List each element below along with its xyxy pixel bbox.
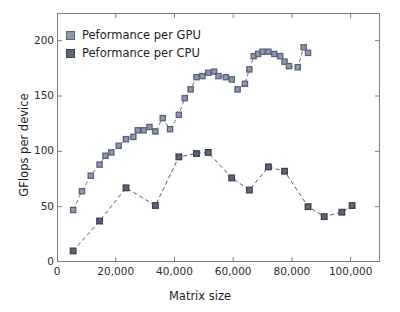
data-point [109,150,114,155]
data-point [167,127,172,132]
data-point [188,87,193,92]
data-point [305,50,310,55]
data-point [272,51,277,56]
data-point [321,214,327,220]
data-point [123,137,128,142]
legend-item-cpu: Peformance per CPU [66,48,201,60]
data-point [282,168,288,174]
data-point [247,187,253,193]
data-point [153,203,159,209]
data-point [160,116,165,121]
legend-marker-cpu-icon [66,49,75,58]
data-point [176,154,182,160]
x-tick-label: 20,000 [97,266,134,277]
data-point [305,204,311,210]
data-point [286,64,291,69]
data-point [135,128,140,133]
data-point [176,112,181,117]
data-point [266,49,271,54]
y-axis-title: GFlops per device [17,75,31,215]
data-point [70,248,76,254]
data-point [206,70,211,75]
series-line [73,152,352,250]
data-point [278,54,283,59]
x-tick-label: 60,000 [215,266,252,277]
series-gpu [71,45,311,213]
data-point [200,73,205,78]
chart-figure: 050100150200 020,00040,00060,00080,00010… [0,0,400,312]
series-line [73,47,308,210]
y-tick-label: 200 [20,35,54,46]
chart-legend: Peformance per GPU Peformance per CPU [62,28,205,61]
series-cpu [70,150,355,254]
data-point [223,75,228,80]
data-point [229,175,235,181]
legend-label-gpu: Peformance per GPU [82,30,201,42]
data-point [235,87,240,92]
data-point [131,134,136,139]
x-tick-label: 100,000 [329,266,372,277]
legend-item-gpu: Peformance per GPU [66,30,201,42]
data-point [141,128,146,133]
data-point [103,153,108,158]
data-point [88,173,93,178]
data-point [147,124,152,129]
legend-label-cpu: Peformance per CPU [82,48,200,60]
data-point [339,209,345,215]
data-point [123,185,129,191]
data-point [242,81,247,86]
data-point [116,143,121,148]
data-point [182,96,187,101]
y-tick-label: 0 [20,256,54,267]
data-point [266,164,272,170]
x-axis-title: Matrix size [0,289,400,303]
data-point [153,129,158,134]
data-point [97,218,103,224]
data-point [301,45,306,50]
data-point [194,151,200,157]
data-point [247,67,252,72]
legend-marker-gpu-icon [66,31,75,40]
data-point [97,162,102,167]
data-point [295,65,300,70]
data-point [194,75,199,80]
data-point [216,73,221,78]
data-point [349,203,355,209]
data-point [205,150,211,156]
x-tick-label: 0 [54,266,61,277]
data-point [79,189,84,194]
data-point [71,207,76,212]
x-tick-label: 40,000 [156,266,193,277]
data-point [229,77,234,82]
data-point [260,49,265,54]
x-tick-label: 80,000 [274,266,311,277]
